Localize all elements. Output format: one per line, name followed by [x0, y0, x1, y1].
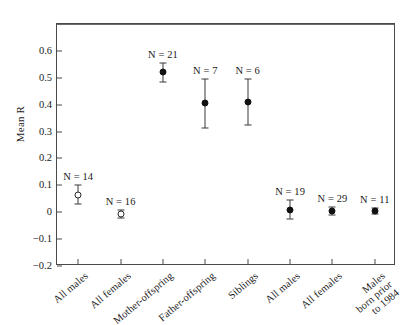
data-point-n-label: N = 16 [106, 196, 136, 207]
x-tick-mark [290, 259, 291, 264]
data-point-n-label: N = 21 [148, 49, 178, 60]
y-tick-mark [57, 131, 62, 132]
data-point-marker[interactable] [117, 210, 124, 217]
data-point-n-label: N = 7 [193, 66, 218, 77]
y-tick-label: −0.1 [33, 234, 52, 245]
data-point-marker[interactable] [202, 100, 209, 107]
y-tick-mark [57, 104, 62, 105]
error-bar-cap [202, 127, 209, 128]
x-tick-label: Siblings [226, 270, 260, 301]
y-tick-label: 0.5 [39, 73, 52, 84]
y-tick-label: 0.2 [39, 153, 52, 164]
y-tick-label: 0.3 [39, 126, 52, 137]
x-tick-mark [374, 259, 375, 264]
error-bar-cap [159, 62, 166, 63]
y-tick-label: 0.1 [39, 180, 52, 191]
y-tick-mark [57, 266, 62, 267]
x-tick-mark [247, 259, 248, 264]
error-bar-cap [287, 218, 294, 219]
data-point-marker[interactable] [329, 207, 336, 214]
data-point-n-label: N = 29 [318, 194, 348, 205]
error-bar-cap [75, 185, 82, 186]
x-tick-label: All males [51, 270, 90, 305]
zero-reference-line [57, 24, 394, 25]
y-tick-mark [57, 158, 62, 159]
y-tick-mark [57, 212, 62, 213]
x-tick-mark [120, 259, 121, 264]
error-bar-cap [287, 200, 294, 201]
error-bar-cap [75, 204, 82, 205]
y-tick-label: 0.4 [39, 99, 52, 110]
figure-canvas: Mean R 0.60.50.40.30.20.10−0.1−0.2 N = 1… [0, 0, 408, 325]
y-tick-label: 0.6 [39, 46, 52, 57]
data-point-n-label: N = 11 [360, 194, 389, 205]
data-point-marker[interactable] [287, 206, 294, 213]
y-tick-mark [57, 50, 62, 51]
data-point-marker[interactable] [159, 69, 166, 76]
x-tick-mark [78, 259, 79, 264]
y-tick-label: −0.2 [33, 261, 52, 272]
data-point-n-label: N = 14 [63, 172, 93, 183]
y-tick-mark [57, 239, 62, 240]
error-bar-cap [202, 79, 209, 80]
y-tick-mark [57, 77, 62, 78]
plot-area: 0.60.50.40.30.20.10−0.1−0.2 N = 14N = 16… [56, 23, 395, 265]
x-tick-mark [205, 259, 206, 264]
y-tick-label: 0 [47, 207, 52, 218]
x-tick-label: All males [263, 270, 302, 305]
x-tick-mark [332, 259, 333, 264]
data-point-n-label: N = 19 [275, 187, 305, 198]
error-bar-cap [159, 81, 166, 82]
y-axis-title: Mean R [14, 84, 26, 164]
error-bar-cap [244, 79, 251, 80]
error-bar-cap [117, 217, 124, 218]
data-point-marker[interactable] [75, 191, 82, 198]
x-tick-label: All females [299, 270, 344, 310]
data-point-marker[interactable] [244, 98, 251, 105]
data-point-n-label: N = 6 [235, 66, 260, 77]
data-point-marker[interactable] [371, 207, 378, 214]
error-bar-cap [244, 124, 251, 125]
x-tick-label: Males born prior to 1984 [347, 270, 401, 323]
x-tick-mark [162, 259, 163, 264]
y-tick-mark [57, 185, 62, 186]
